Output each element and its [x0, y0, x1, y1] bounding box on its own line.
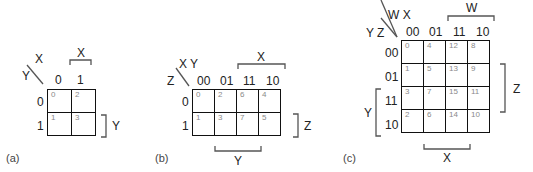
kmap-cell: 5: [424, 64, 446, 87]
kmap-cell: 4: [259, 90, 281, 113]
top-bracket-label: W: [466, 2, 477, 14]
col-var-label: X Y: [179, 58, 198, 70]
row-header: 1: [37, 120, 44, 132]
minterm-index: 13: [449, 65, 458, 73]
minterm-index: 0: [196, 91, 200, 99]
kmap-cell: 2: [215, 90, 237, 113]
col-header: 0: [55, 74, 62, 86]
kmap-cell: 13: [446, 64, 468, 87]
kmap-cell: 3: [402, 87, 424, 110]
kmap-cell: 12: [446, 41, 468, 64]
minterm-index: 6: [240, 91, 244, 99]
minterm-index: 9: [471, 65, 475, 73]
kmap-cell: 5: [259, 113, 281, 136]
right-bracket-label: Y: [112, 120, 120, 132]
kmap-cell: 0: [402, 41, 424, 64]
minterm-index: 4: [262, 91, 266, 99]
col-var-label: X: [35, 53, 43, 65]
row-header: 0: [37, 96, 44, 108]
row-header: 01: [385, 71, 398, 83]
minterm-index: 3: [405, 88, 409, 96]
kmap-cell: 2: [402, 110, 424, 133]
kmap-cell: 3: [72, 113, 96, 136]
kmap-cell: 11: [468, 87, 490, 110]
minterm-index: 15: [449, 88, 458, 96]
minterm-index: 4: [427, 42, 431, 50]
top-bracket-label: X: [257, 51, 265, 63]
kmap-cell: 15: [446, 87, 468, 110]
kmap-cell: 6: [237, 90, 259, 113]
kmap-cell: 7: [424, 87, 446, 110]
row-var-label: Z: [167, 75, 174, 87]
row-header: 00: [385, 47, 398, 59]
right-bracket-label: Z: [304, 120, 311, 132]
row-header: 10: [385, 119, 398, 131]
col-var-label: W X: [388, 9, 411, 21]
minterm-index: 0: [405, 42, 409, 50]
minterm-index: 5: [262, 114, 266, 122]
kmap-cell: 14: [446, 110, 468, 133]
minterm-index: 1: [51, 114, 55, 122]
caption: (c): [343, 153, 356, 164]
kmap-cell: 3: [215, 113, 237, 136]
col-header: 10: [266, 75, 279, 87]
minterm-index: 14: [449, 111, 458, 119]
bottom-bracket-label: X: [443, 152, 451, 164]
kmap-cell: 0: [48, 90, 72, 113]
row-header: 11: [385, 95, 397, 107]
bottom-bracket-label: Y: [234, 155, 242, 167]
minterm-index: 2: [75, 91, 79, 99]
minterm-index: 2: [218, 91, 222, 99]
col-header: 1: [77, 74, 84, 86]
kmap-grid: 0 2 1 3: [47, 89, 96, 136]
minterm-index: 12: [449, 42, 458, 50]
kmap-cell: 7: [237, 113, 259, 136]
kmap-cell: 10: [468, 110, 490, 133]
col-header: 11: [243, 75, 255, 87]
right-bracket-label: Z: [513, 83, 520, 95]
minterm-index: 5: [427, 65, 431, 73]
col-header: 01: [220, 75, 233, 87]
left-bracket-label: Y: [364, 107, 372, 119]
minterm-index: 2: [405, 111, 409, 119]
kmap-grid: 0 4 12 8 1 5 13 9 3 7 15 11 2 6 14 10: [401, 40, 490, 133]
minterm-index: 8: [471, 42, 475, 50]
col-header: 00: [406, 26, 419, 38]
kmap-cell: 0: [193, 90, 215, 113]
col-header: 01: [429, 26, 442, 38]
minterm-index: 11: [471, 88, 479, 96]
row-var-label: Y: [22, 70, 30, 82]
minterm-index: 7: [427, 88, 431, 96]
kmap-cell: 1: [48, 113, 72, 136]
kmap-cell: 4: [424, 41, 446, 64]
col-header: 11: [453, 26, 465, 38]
minterm-index: 3: [75, 114, 79, 122]
row-header: 1: [182, 120, 189, 132]
kmap-cell: 2: [72, 90, 96, 113]
caption: (b): [155, 153, 168, 164]
minterm-index: 0: [51, 91, 55, 99]
kmap-grid: 0 2 6 4 1 3 7 5: [192, 89, 281, 136]
kmap-cell: 6: [424, 110, 446, 133]
col-header: 00: [197, 75, 210, 87]
kmap-cell: 1: [402, 64, 424, 87]
minterm-index: 7: [240, 114, 244, 122]
col-header: 10: [476, 26, 489, 38]
caption: (a): [6, 153, 19, 164]
kmap-cell: 8: [468, 41, 490, 64]
row-header: 0: [182, 96, 189, 108]
minterm-index: 3: [218, 114, 222, 122]
minterm-index: 1: [196, 114, 200, 122]
minterm-index: 10: [471, 111, 480, 119]
minterm-index: 6: [427, 111, 431, 119]
top-bracket-label: X: [77, 47, 85, 59]
minterm-index: 1: [405, 65, 409, 73]
kmap-cell: 9: [468, 64, 490, 87]
row-var-label: Y Z: [366, 27, 384, 39]
kmap-cell: 1: [193, 113, 215, 136]
